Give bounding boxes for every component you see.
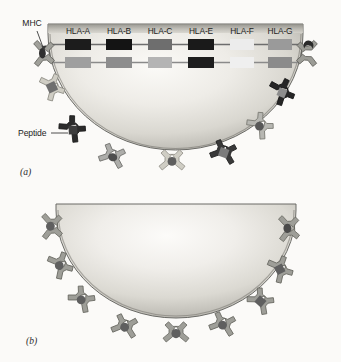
allele-box-hla-g-1 [268, 39, 292, 50]
allele-box-hla-b-2 [106, 57, 132, 68]
locus-label-hla-f: HLA-F [230, 26, 254, 36]
locus-label-hla-e: HLA-E [189, 26, 214, 36]
locus-label-hla-c: HLA-C [148, 26, 173, 36]
allele-box-hla-g-2 [268, 57, 292, 68]
locus-label-hla-g: HLA-G [267, 26, 292, 36]
locus-label-hla-b: HLA-B [107, 26, 132, 36]
allele-box-hla-e-2 [188, 57, 214, 68]
allele-box-hla-e-1 [188, 39, 214, 50]
receptor-s5 [163, 322, 189, 342]
panel-tag-b: (b) [26, 335, 37, 347]
peptide-label: Peptide [18, 128, 47, 138]
peptide-shape [171, 329, 180, 338]
peptide-shape [69, 126, 78, 135]
peptide-callout: Peptide [18, 128, 68, 138]
panel-b: (b) [26, 204, 300, 347]
allele-box-hla-a-1 [65, 39, 91, 50]
panel-a: HLA-A HLA-B HLA-C HLA-E HLA-F HLA-G [18, 18, 317, 178]
figure-canvas: HLA-A HLA-B HLA-C HLA-E HLA-F HLA-G [0, 0, 341, 362]
receptor-r5 [159, 150, 185, 170]
mhc-label: MHC [22, 18, 41, 28]
allele-box-hla-b-1 [106, 39, 132, 50]
receptor-s4 [110, 312, 141, 339]
panel-tag-a: (a) [20, 166, 31, 178]
receptor-s6 [207, 310, 238, 338]
allele-box-hla-c-1 [148, 39, 172, 50]
mhc-figure: HLA-A HLA-B HLA-C HLA-E HLA-F HLA-G [0, 0, 341, 362]
allele-box-hla-f-1 [230, 39, 254, 50]
peptide-shape [168, 157, 177, 166]
locus-label-hla-a: HLA-A [66, 26, 91, 36]
allele-box-hla-c-2 [148, 57, 172, 68]
allele-box-hla-a-2 [65, 57, 91, 68]
allele-box-hla-f-2 [230, 57, 254, 68]
receptor-r3 [57, 112, 90, 145]
receptor-r4 [97, 141, 129, 169]
